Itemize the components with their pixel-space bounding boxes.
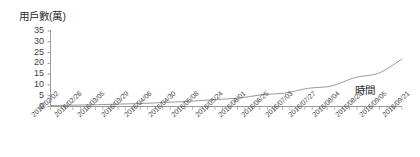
plot-area (0, 0, 420, 157)
axes (51, 30, 403, 107)
data-series-line (51, 59, 403, 106)
x-axis-ticks (51, 107, 403, 110)
user-growth-line-chart: 用戶數(萬) 時間 05101520253035 2016/02/022016/… (0, 0, 420, 157)
